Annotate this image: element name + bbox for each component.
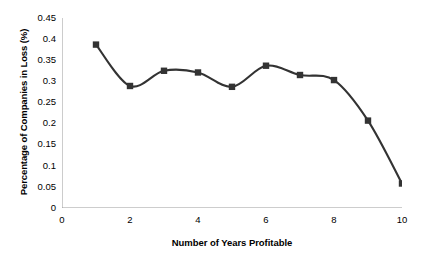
data-point	[365, 117, 371, 123]
x-tick-label: 10	[387, 214, 417, 226]
y-tick-label: 0.15	[14, 138, 56, 150]
data-point	[161, 68, 167, 74]
data-point	[331, 77, 337, 83]
y-tick-label: 0	[14, 202, 56, 214]
y-tick-label: 0.35	[14, 54, 56, 66]
y-tick-label: 0.2	[14, 117, 56, 129]
data-point	[93, 41, 99, 47]
x-tick-label: 4	[183, 214, 213, 226]
axis-ticks	[62, 18, 402, 208]
chart-figure: Percentage of Companies in Loss (%) 0.45…	[0, 0, 421, 262]
data-markers	[93, 41, 402, 186]
data-line	[96, 45, 402, 184]
x-axis-title: Number of Years Profitable	[62, 237, 402, 248]
x-tick-label: 2	[115, 214, 145, 226]
y-tick-label: 0.45	[14, 12, 56, 24]
data-point	[297, 72, 303, 78]
data-point	[127, 83, 133, 89]
data-point	[195, 69, 201, 75]
x-tick-label: 6	[251, 214, 281, 226]
line-chart-svg	[62, 18, 402, 208]
y-tick-label: 0.1	[14, 160, 56, 172]
y-tick-label: 0.25	[14, 96, 56, 108]
data-point	[399, 180, 402, 186]
y-tick-label: 0.3	[14, 75, 56, 87]
plot-area	[62, 18, 402, 208]
axis-lines	[62, 18, 402, 208]
data-point	[263, 63, 269, 69]
y-tick-label: 0.4	[14, 33, 56, 45]
y-tick-label: 0.05	[14, 181, 56, 193]
x-tick-label: 8	[319, 214, 349, 226]
x-tick-label: 0	[47, 214, 77, 226]
data-point	[229, 84, 235, 90]
